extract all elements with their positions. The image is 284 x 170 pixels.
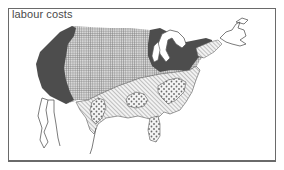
us-labour-costs-map [0, 0, 284, 170]
mexico-coast-outline [48, 100, 60, 146]
baja-california-outline [38, 98, 48, 148]
maritimes-outline [220, 22, 246, 46]
region-florida-dots [148, 116, 160, 142]
